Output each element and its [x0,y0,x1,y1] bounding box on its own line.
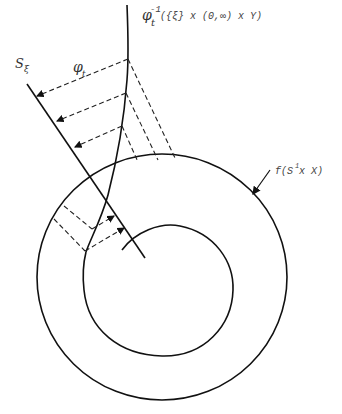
section-line [27,84,145,258]
outer-circle [37,154,287,400]
svg-text:f(S: f(S [275,166,293,177]
svg-text:S: S [15,56,24,71]
svg-text:x X): x X) [298,166,323,177]
label-preimage: φ t -1 ({ξ} x (0,∞) x Y) [142,5,262,28]
label-section: S ξ [15,56,30,74]
svg-text:t: t [82,69,86,79]
svg-text:t: t [151,17,156,28]
projection-lines-upper [122,59,176,162]
label-image: f(S 1 x X) [275,162,323,177]
label-flow: φ t [73,59,86,79]
preimage-curve [86,5,128,252]
svg-text:({ξ} x (0,∞) x Y): ({ξ} x (0,∞) x Y) [160,11,262,22]
image-pointer [253,170,270,194]
svg-text:ξ: ξ [24,64,30,74]
spiral-curve [83,225,233,356]
diagram-canvas: φ t -1 ({ξ} x (0,∞) x Y) S ξ φ t f(S 1 x… [0,0,342,414]
